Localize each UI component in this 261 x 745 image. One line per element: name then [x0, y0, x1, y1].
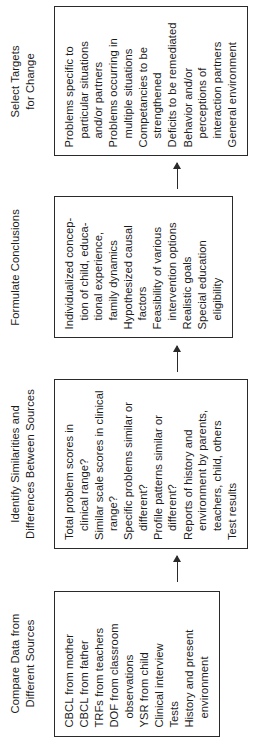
list-item: Total problem scores inclinical range?: [62, 387, 91, 540]
list-item-text: Deficits to be remediated: [166, 22, 178, 147]
list-item-text: Specific problems similar or: [122, 402, 134, 540]
list-item: CBCL from father: [77, 599, 92, 728]
list-item-text: Total problem scores in: [63, 424, 75, 540]
list-item-continuation: different?: [165, 387, 180, 540]
list-item-text: Hypothesized causal: [122, 225, 134, 329]
list-item: Behavior and/orperceptions of interactio…: [181, 14, 225, 147]
list-item-continuation: environment: [197, 599, 212, 728]
stage-box-compare-data: CBCL from mother CBCL from father TRFs f…: [54, 591, 220, 737]
diagram-rotator: Compare Data from Different Sources CBCL…: [0, 0, 261, 745]
stage-box-identify-similarities: Total problem scores inclinical range? S…: [54, 379, 248, 549]
list-item-continuation: observations: [122, 599, 137, 728]
list-item-continuation: clinical range?: [77, 387, 92, 540]
list-item: History and presentenvironment: [182, 599, 211, 728]
list-item-text: CBCL from father: [78, 640, 90, 727]
list-item-text: Special education: [196, 240, 208, 329]
list-item: Hypothesized causalfactors: [121, 204, 150, 329]
stage-select-targets: Select Targets for Change Problems speci…: [6, 4, 253, 159]
list-item-text: TRFs from teachers: [93, 628, 105, 728]
list-item: TRFs from teachers: [92, 599, 107, 728]
list-item: DOF from classroomobservations: [107, 599, 136, 728]
list-item-text: History and present: [183, 630, 195, 728]
list-item-text: General environment: [226, 42, 238, 147]
list-item-text: Feasibility of various: [151, 227, 163, 329]
stage-header-formulate-conclusions: Formulate Conclusions: [6, 209, 50, 326]
stage-item-list-select-targets: Problems specific toparticular situation…: [62, 14, 239, 147]
stage-box-formulate-conclusions: Individualized concep-tion of child, edu…: [54, 196, 233, 338]
list-item-text: Tests: [168, 701, 180, 727]
list-item-text: Clinical interview: [153, 643, 165, 727]
connector-3: [6, 159, 253, 193]
list-item-text: DOF from classroom: [108, 623, 120, 727]
list-item: YSR from child: [137, 599, 152, 728]
list-item-text: Test results: [226, 483, 238, 540]
list-item-continuation: environment by parents, teachers, child,…: [195, 387, 224, 540]
stage-compare-data: Compare Data from Different Sources CBCL…: [6, 586, 253, 741]
list-item: Special educationeligibility: [195, 204, 224, 329]
list-item-text: Realistic goals: [181, 257, 193, 330]
arrow-right-icon: [177, 556, 178, 582]
list-item: Tests: [167, 599, 182, 728]
stage-formulate-conclusions: Formulate Conclusions Individualized con…: [6, 193, 253, 342]
list-item-text: CBCL from mother: [63, 634, 75, 728]
list-item-text: Problems occurring in: [107, 38, 119, 147]
list-item: Profile patterns similar ordifferent?: [151, 387, 180, 540]
list-item: Specific problems similar ordifferent?: [121, 387, 150, 540]
list-item: Individualized concep-tion of child, edu…: [62, 204, 120, 329]
stage-box-select-targets: Problems specific toparticular situation…: [54, 6, 248, 156]
list-item-text: Similar scale scores in clinical: [93, 390, 105, 540]
stage-item-list-identify-similarities: Total problem scores inclinical range? S…: [62, 387, 239, 540]
list-item: Realistic goals: [180, 204, 195, 329]
list-item-text: Competancies to be: [137, 47, 149, 147]
list-item: Reports of history andenvironment by par…: [181, 387, 225, 540]
stage-header-compare-data: Compare Data from Different Sources: [6, 614, 50, 714]
list-item: Feasibility of variousintervention optio…: [150, 204, 179, 329]
list-item-continuation: perceptions of interaction partners: [195, 14, 224, 147]
stage-item-list-formulate-conclusions: Individualized concep-tion of child, edu…: [62, 204, 224, 329]
list-item-continuation: range?: [106, 387, 121, 540]
list-item: Similar scale scores in clinicalrange?: [92, 387, 121, 540]
connector-1: [6, 552, 253, 586]
list-item-continuation: eligibility: [210, 204, 225, 329]
list-item-text: Problems specific to: [63, 46, 75, 147]
stage-identify-similarities: Identify Similarities and Differences Be…: [6, 376, 253, 552]
list-item-continuation: particular situations and/or partners: [77, 14, 106, 147]
list-item: Problems occurring inmultiple situations: [106, 14, 135, 147]
arrow-right-icon: [177, 346, 178, 372]
list-item-continuation: intervention options: [165, 204, 180, 329]
stage-header-identify-similarities: Identify Similarities and Differences Be…: [6, 389, 50, 539]
list-item: Deficits to be remediated: [165, 14, 180, 147]
connector-2: [6, 342, 253, 376]
list-item-continuation: tion of child, educa- tional experience,…: [77, 204, 121, 329]
list-item-text: YSR from child: [138, 652, 150, 727]
list-item-continuation: different?: [136, 387, 151, 540]
list-item: Test results: [225, 387, 240, 540]
stage-item-list-compare-data: CBCL from mother CBCL from father TRFs f…: [62, 599, 211, 728]
list-item-continuation: strengthened: [150, 14, 165, 147]
list-item-text: Reports of history and: [182, 430, 194, 541]
list-item-continuation: factors: [135, 204, 150, 329]
assessment-flowchart: Compare Data from Different Sources CBCL…: [0, 0, 261, 745]
list-item: Clinical interview: [152, 599, 167, 728]
list-item: Problems specific toparticular situation…: [62, 14, 106, 147]
list-item-text: Behavior and/or: [182, 68, 194, 148]
stage-header-select-targets: Select Targets for Change: [6, 45, 50, 117]
arrow-right-icon: [177, 163, 178, 189]
list-item: CBCL from mother: [62, 599, 77, 728]
list-item-continuation: multiple situations: [121, 14, 136, 147]
list-item-text: Profile patterns similar or: [152, 415, 164, 540]
list-item: Competancies to bestrengthened: [136, 14, 165, 147]
list-item: General environment: [225, 14, 240, 147]
list-item-text: Individualized concep-: [63, 218, 75, 330]
